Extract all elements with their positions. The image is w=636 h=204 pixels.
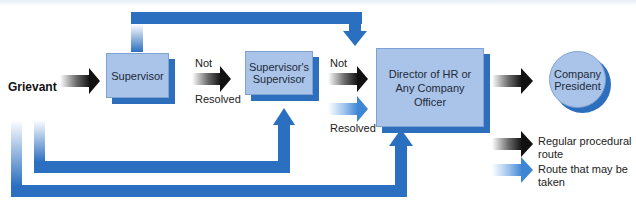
arrow-optional-to-director [328, 96, 368, 122]
legend-line: route [538, 148, 563, 160]
label-line: Officer [414, 96, 446, 108]
node-supervisor: Supervisor [106, 53, 169, 98]
top-bypass-route [131, 12, 367, 52]
arrow-down-icon [343, 31, 367, 46]
label-line: Director of HR or [389, 68, 472, 80]
edge-label-not-2: Not [330, 57, 347, 69]
label-line: President [554, 80, 600, 92]
legend-line: Route that may be [538, 163, 628, 175]
edge-label-resolved-2: Resolved [330, 122, 376, 134]
arrow-grievant-to-supervisor [60, 68, 100, 94]
node-director-label: Director of HR or Any Company Officer [389, 67, 472, 109]
arrow-supervisor-to-supervisors-supervisor [192, 66, 231, 92]
legend-line: taken [538, 176, 565, 188]
arrow-supervisors-supervisor-to-director [328, 66, 368, 92]
label-line: Supervisor's [249, 61, 309, 73]
legend-regular-arrow [492, 131, 533, 157]
node-company-president-label: Company President [554, 68, 601, 92]
inner-bottom-bypass-route [34, 108, 295, 173]
arrow-director-to-president [492, 68, 533, 94]
edge-label-not-1: Not [195, 57, 212, 69]
node-supervisor-label: Supervisor [111, 70, 164, 82]
node-director: Director of HR or Any Company Officer [376, 48, 484, 127]
label-line: Company [554, 68, 601, 80]
arrow-up-icon [389, 129, 413, 146]
edge-label-resolved-1: Resolved [195, 93, 241, 105]
label-line: Supervisor [253, 73, 306, 85]
node-supervisors-supervisor: Supervisor's Supervisor [245, 51, 313, 95]
legend-line: Regular procedural [538, 135, 632, 147]
label-line: Any Company [395, 82, 464, 94]
legend-optional-arrow [492, 157, 533, 183]
node-company-president: Company President [549, 51, 606, 108]
arrow-up-icon [273, 108, 295, 125]
grievant-label: Grievant [8, 80, 57, 94]
legend-optional-label: Route that may be taken [538, 163, 628, 189]
legend-regular-label: Regular procedural route [538, 135, 632, 161]
node-supervisors-supervisor-label: Supervisor's Supervisor [249, 61, 309, 85]
